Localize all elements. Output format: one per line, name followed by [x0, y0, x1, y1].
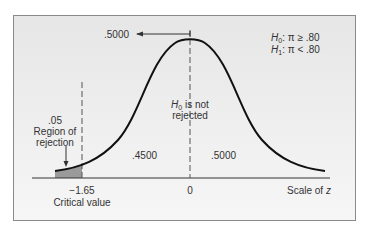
critical-value-label: Critical value [47, 197, 117, 208]
region-of-rejection-line2: rejection [22, 137, 88, 148]
top-half-area-label: .5000 [104, 29, 129, 40]
arrow-left-icon [136, 32, 143, 37]
region-of-rejection-line1: Region of [22, 126, 88, 137]
is-not-text: is not [182, 99, 209, 110]
right-area-label: .5000 [211, 150, 236, 161]
alpha-value-label: .05 [22, 115, 88, 126]
h0-not-rejected-line2: rejected [160, 110, 220, 121]
z-axis-label: Scale of z [287, 185, 331, 196]
axis-label-prefix: Scale of [287, 185, 326, 196]
critical-z-value: −1.65 [57, 185, 107, 196]
arrow-down-icon [64, 161, 69, 167]
left-area-label: .4500 [132, 150, 157, 161]
h0-text: : π ≥ .80 [282, 32, 319, 43]
h1-text: : π < .80 [282, 44, 320, 55]
alternative-hypothesis: H1: π < .80 [271, 44, 320, 55]
null-hypothesis: H0: π ≥ .80 [271, 32, 320, 43]
zero-tick-label: 0 [180, 185, 200, 196]
h0-not-rejected-line1: H0 is not [160, 99, 220, 110]
axis-variable-z: z [326, 185, 331, 196]
